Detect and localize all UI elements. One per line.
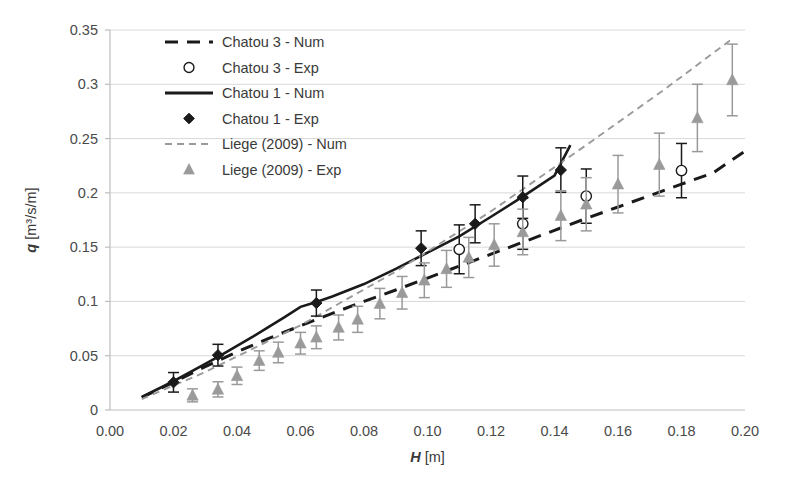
x-tick-label: 0.06 [286,423,314,439]
x-tick-label: 0.16 [604,423,632,439]
x-tick-label: 0.02 [159,423,187,439]
y-tick-label: 0 [90,402,98,418]
marker-open-circle [454,244,464,254]
legend-label: Liege (2009) - Exp [222,162,341,178]
x-tick-label: 0.04 [223,423,251,439]
x-tick-label: 0.14 [540,423,568,439]
legend-label: Chatou 3 - Exp [222,60,319,76]
y-axis-title: q [m³/s/m] [23,187,39,252]
y-tick-label: 0.2 [78,185,98,201]
x-tick-label: 0.18 [667,423,695,439]
legend-label: Chatou 3 - Num [222,34,324,50]
x-tick-label: 0.12 [477,423,505,439]
y-tick-label: 0.35 [70,22,98,38]
y-tick-label: 0.15 [70,239,98,255]
y-tick-label: 0.3 [78,76,98,92]
chart-figure: 0.000.020.040.060.080.100.120.140.160.18… [0,0,792,483]
legend-label: Liege (2009) - Num [222,136,347,152]
marker-open-circle [184,63,194,73]
y-tick-label: 0.05 [70,348,98,364]
marker-open-circle [676,165,686,175]
x-tick-label: 0.20 [731,423,759,439]
y-tick-label: 0.25 [70,131,98,147]
x-tick-label: 0.00 [96,423,124,439]
x-tick-label: 0.10 [413,423,441,439]
x-tick-label: 0.08 [350,423,378,439]
y-tick-label: 0.1 [78,293,98,309]
scatter-plot-svg: 0.000.020.040.060.080.100.120.140.160.18… [0,0,792,483]
x-axis-title: H [m] [410,449,445,465]
legend-label: Chatou 1 - Exp [222,111,319,127]
legend-label: Chatou 1 - Num [222,85,324,101]
